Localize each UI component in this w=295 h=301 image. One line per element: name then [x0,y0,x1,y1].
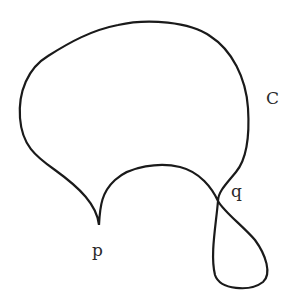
curve-diagram [0,0,295,301]
point-label-q: q [231,183,242,200]
point-label-p: p [92,242,103,259]
curve-c [20,22,268,289]
curve-label-c: C [266,90,279,107]
